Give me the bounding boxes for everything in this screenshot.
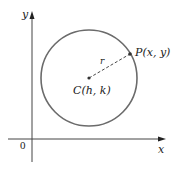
point-p xyxy=(128,52,132,56)
center-point xyxy=(87,76,90,79)
radius-line xyxy=(89,54,130,78)
x-axis-label: x xyxy=(158,143,165,156)
circle-diagram: y 0 x P(x, y) r C(h, k) xyxy=(0,0,181,170)
y-axis-label: y xyxy=(21,8,29,21)
point-label: P(x, y) xyxy=(134,46,170,59)
radius-label: r xyxy=(100,56,105,66)
x-axis-arrow-icon xyxy=(158,137,166,142)
origin-label: 0 xyxy=(20,139,26,151)
y-axis-arrow-icon xyxy=(30,11,35,19)
center-label: C(h, k) xyxy=(73,84,111,97)
